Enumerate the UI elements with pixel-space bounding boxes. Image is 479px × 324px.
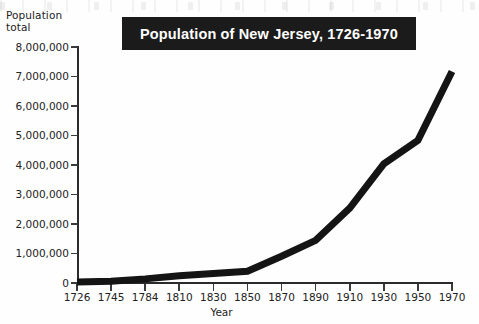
chart-title-banner: Population of New Jersey, 1726-1970 [122, 17, 416, 50]
y-axis-tick [71, 253, 78, 255]
y-axis-tick [71, 223, 78, 225]
x-axis-tick [451, 284, 453, 291]
y-axis-tick [71, 105, 78, 107]
y-axis-tick-label-wrap: 7,000,000 [0, 70, 69, 82]
y-axis-tick-label: 0 [1, 277, 69, 289]
x-axis-tick [417, 284, 419, 291]
x-axis-tick [110, 284, 112, 291]
chart-title: Population of New Jersey, 1726-1970 [140, 26, 398, 42]
x-axis-line [77, 282, 453, 284]
y-axis-tick-label: 8,000,000 [1, 41, 69, 53]
x-axis-tick [315, 284, 317, 291]
chart-page: Population total Population of New Jerse… [0, 0, 479, 324]
y-axis-tick-label: 6,000,000 [1, 100, 69, 112]
y-axis-tick-label-wrap: 4,000,000 [0, 159, 69, 171]
y-axis-tick-label: 5,000,000 [1, 129, 69, 141]
scan-artifact-top-secondary [0, 2, 479, 10]
y-axis-tick-label-wrap: 1,000,000 [0, 247, 69, 259]
y-axis-tick-label-wrap: 2,000,000 [0, 218, 69, 230]
y-axis-tick-label-wrap: 0 [0, 277, 69, 289]
x-axis-tick-label: 1970 [430, 291, 474, 303]
y-axis-title: Population total [6, 10, 62, 33]
y-axis-tick [71, 164, 78, 166]
x-axis-tick [76, 284, 78, 291]
y-axis-title-line1: Population [6, 9, 62, 21]
y-axis-tick-label: 3,000,000 [1, 188, 69, 200]
y-axis-tick-label: 2,000,000 [1, 218, 69, 230]
x-axis-title-text: Year [210, 306, 232, 318]
x-axis-tick [178, 284, 180, 291]
y-axis-tick-label: 1,000,000 [1, 247, 69, 259]
x-axis-tick [281, 284, 283, 291]
x-axis-tick [349, 284, 351, 291]
x-axis-title: Year [0, 306, 479, 318]
y-axis-tick-label-wrap: 8,000,000 [0, 41, 69, 53]
y-axis-tick [71, 194, 78, 196]
y-axis-tick-label: 7,000,000 [1, 70, 69, 82]
y-axis-tick-label-wrap: 6,000,000 [0, 100, 69, 112]
x-axis-tick [383, 284, 385, 291]
y-axis-title-line2: total [6, 21, 31, 33]
y-axis-tick-label-wrap: 3,000,000 [0, 188, 69, 200]
y-axis-tick [71, 76, 78, 78]
population-line [77, 72, 452, 283]
y-axis-tick [71, 46, 78, 48]
x-axis-tick [213, 284, 215, 291]
y-axis-tick [71, 135, 78, 137]
x-axis-tick [247, 284, 249, 291]
x-axis-tick [144, 284, 146, 291]
y-axis-tick-label-wrap: 5,000,000 [0, 129, 69, 141]
y-axis-tick-label: 4,000,000 [1, 159, 69, 171]
